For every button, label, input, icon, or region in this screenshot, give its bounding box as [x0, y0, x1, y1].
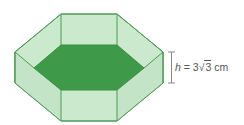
height-label: h = 3√3 cm: [175, 60, 228, 73]
radicand: 3: [204, 60, 211, 73]
unit: cm: [214, 61, 228, 73]
height-variable: h: [175, 61, 181, 73]
height-dimension-bracket: [168, 52, 175, 83]
equals-sign: =: [184, 61, 190, 73]
